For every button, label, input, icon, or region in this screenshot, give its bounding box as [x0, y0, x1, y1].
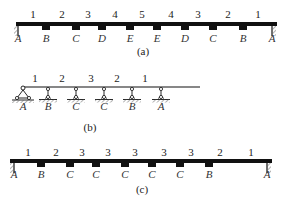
support-letter: B — [45, 100, 52, 112]
support-letter: E — [153, 32, 161, 44]
span-label: 3 — [161, 146, 167, 158]
support-letter: A — [10, 168, 18, 180]
span-label: 1 — [255, 8, 261, 20]
span-label: 3 — [132, 146, 138, 158]
support-letter: C — [66, 168, 74, 180]
support-block-icon — [148, 163, 156, 167]
support-block-icon — [121, 163, 129, 167]
support-letter: D — [97, 32, 106, 44]
support-letter: B — [43, 32, 50, 44]
support-letter: D — [180, 32, 189, 44]
support-block-icon — [42, 26, 50, 30]
support-block-icon — [153, 26, 161, 30]
support-letter: C — [72, 100, 80, 112]
diagram-caption: (b) — [84, 121, 97, 134]
support-block-icon — [72, 26, 80, 30]
support-block-icon — [176, 163, 184, 167]
support-letter: B — [129, 100, 136, 112]
support-letter: C — [121, 168, 129, 180]
span-label: 2 — [59, 8, 65, 20]
support-block-icon — [209, 26, 217, 30]
diagram-caption: (a) — [137, 45, 150, 58]
support-block-icon — [98, 26, 106, 30]
span-label: 2 — [225, 8, 231, 20]
support-letter: E — [126, 32, 134, 44]
diagram-caption: (c) — [136, 183, 149, 196]
support-letter: C — [72, 32, 80, 44]
support-letter: A — [157, 100, 165, 112]
span-label: 3 — [88, 72, 94, 84]
span-label: 3 — [188, 146, 194, 158]
span-label: 2 — [114, 72, 120, 84]
span-label: 4 — [112, 8, 118, 20]
span-label: 2 — [53, 146, 59, 158]
support-letter: A — [14, 32, 22, 44]
support-letter: C — [148, 168, 156, 180]
support-block-icon — [37, 163, 45, 167]
span-label: 3 — [79, 146, 85, 158]
span-label: 3 — [85, 8, 91, 20]
span-label: 3 — [105, 146, 111, 158]
support-block-icon — [92, 163, 100, 167]
support-block-icon — [205, 163, 213, 167]
beam — [10, 159, 272, 163]
span-label: 2 — [59, 72, 65, 84]
support-letter: C — [209, 32, 217, 44]
support-letter: B — [240, 32, 247, 44]
beam — [16, 22, 277, 26]
diagram-b: 12321ABCCBA(b) — [12, 72, 200, 134]
support-block-icon — [239, 26, 247, 30]
support-letter: C — [176, 168, 184, 180]
span-label: 1 — [142, 72, 148, 84]
support-letter: A — [19, 100, 27, 112]
support-letter: A — [263, 168, 271, 180]
span-label: 2 — [217, 146, 223, 158]
span-label: 1 — [32, 72, 38, 84]
diagram-a: 123454321ABCDEEDCBA(a) — [14, 8, 277, 58]
support-block-icon — [66, 163, 74, 167]
span-label: 1 — [248, 146, 254, 158]
support-block-icon — [181, 26, 189, 30]
diagram-c: 123333321ABCCCCCBA(c) — [10, 146, 272, 196]
span-label: 4 — [168, 8, 174, 20]
support-letter: B — [206, 168, 213, 180]
span-label: 3 — [195, 8, 201, 20]
span-label: 1 — [25, 146, 31, 158]
support-letter: C — [92, 168, 100, 180]
support-block-icon — [126, 26, 134, 30]
beam-diagrams: 123454321ABCDEEDCBA(a) 12321ABCCBA(b) 12… — [0, 0, 285, 205]
span-label: 5 — [139, 8, 145, 20]
span-label: 1 — [30, 8, 36, 20]
support-letter: A — [268, 32, 276, 44]
support-letter: C — [100, 100, 108, 112]
support-letter: B — [38, 168, 45, 180]
